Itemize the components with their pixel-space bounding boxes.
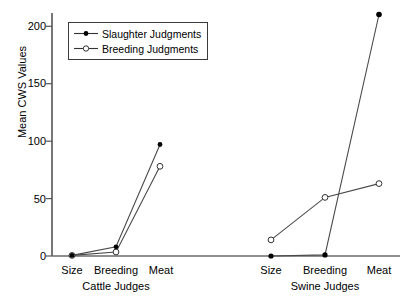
data-point-slaughter: [268, 253, 273, 258]
open-circle-icon: [73, 43, 99, 54]
legend-item-breeding: Breeding Judgments: [73, 41, 201, 56]
series-line-breeding-cattle: [72, 166, 160, 255]
x-tick-label-cattle-breeding: Breeding: [94, 264, 138, 276]
data-point-breeding: [376, 181, 382, 187]
data-point-slaughter: [70, 253, 75, 258]
data-point-slaughter: [376, 12, 382, 18]
x-tick-label-cattle-meat: Meat: [149, 264, 173, 276]
series-line-breeding-swine: [271, 184, 379, 240]
data-point-slaughter: [322, 252, 327, 257]
data-point-breeding: [113, 249, 119, 255]
series-line-slaughter-swine: [271, 15, 379, 257]
data-point-slaughter: [158, 142, 163, 147]
legend-label: Slaughter Judgments: [102, 28, 201, 40]
data-point-breeding: [157, 163, 163, 169]
panel-label-swine: Swine Judges: [291, 280, 360, 292]
x-tick-label-swine-size: Size: [260, 264, 281, 276]
data-point-slaughter: [114, 244, 119, 249]
panel-label-cattle: Cattle Judges: [82, 280, 149, 292]
filled-circle-icon: [73, 28, 99, 39]
x-tick-label-cattle-size: Size: [61, 264, 82, 276]
legend: Slaughter Judgments Breeding Judgments: [68, 22, 208, 60]
legend-item-slaughter: Slaughter Judgments: [73, 26, 201, 41]
legend-label: Breeding Judgments: [102, 43, 198, 55]
chart-figure: Mean CWS Values 200 150 100 50 0: [0, 0, 406, 300]
series-line-slaughter-cattle: [72, 145, 160, 256]
x-tick-label-swine-meat: Meat: [367, 264, 391, 276]
x-tick-label-swine-breeding: Breeding: [303, 264, 347, 276]
data-point-breeding: [268, 237, 274, 243]
data-point-breeding: [322, 195, 328, 201]
